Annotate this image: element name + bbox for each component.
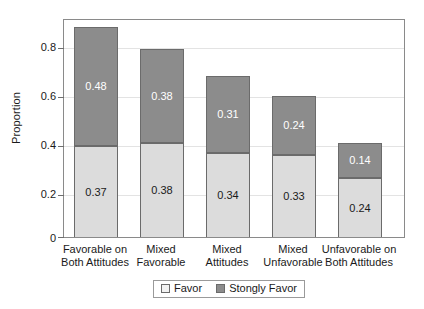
legend-label-favor: Favor xyxy=(174,283,202,294)
chart-legend: Favor Stongly Favor xyxy=(153,280,305,298)
bar-segment-favor[interactable]: 0.38 xyxy=(140,143,184,237)
bar-mixed-attitudes[interactable]: 0.31 0.34 xyxy=(206,76,250,237)
x-tick-label-unfavorable-on-both-attitudes: Unfavorable on Both Attitudes xyxy=(304,243,414,269)
bar-value-label: 0.24 xyxy=(349,203,370,214)
bar-segment-strongly-favor[interactable]: 0.48 xyxy=(74,27,118,146)
y-tick-mark-0.4 xyxy=(58,146,64,147)
bar-segment-strongly-favor[interactable]: 0.24 xyxy=(272,96,316,155)
bar-value-label: 0.31 xyxy=(217,109,238,120)
bar-value-label: 0.33 xyxy=(283,191,304,202)
bar-value-label: 0.38 xyxy=(151,185,172,196)
legend-item-strongly-favor[interactable]: Stongly Favor xyxy=(216,283,297,294)
bar-value-label: 0.14 xyxy=(349,155,370,166)
bar-segment-favor[interactable]: 0.24 xyxy=(338,178,382,237)
bar-favorable-on-both-attitudes[interactable]: 0.48 0.37 xyxy=(74,27,118,237)
legend-item-favor[interactable]: Favor xyxy=(161,283,202,294)
bar-segment-strongly-favor[interactable]: 0.14 xyxy=(338,143,382,178)
bar-value-label: 0.38 xyxy=(151,91,172,102)
chart-figure: Proportion 0.8 0.6 0.4 0.2 0 0.48 0.37 xyxy=(0,0,424,309)
y-tick-mark-0.2 xyxy=(58,195,64,196)
bar-mixed-favorable[interactable]: 0.38 0.38 xyxy=(140,49,184,237)
x-tick-line-2: Both Attitudes xyxy=(304,256,414,269)
bar-segment-favor[interactable]: 0.33 xyxy=(272,155,316,237)
bar-segment-favor[interactable]: 0.34 xyxy=(206,153,250,237)
bar-value-label: 0.34 xyxy=(217,190,238,201)
bar-value-label: 0.37 xyxy=(85,187,106,198)
y-tick-label-0.6: 0.6 xyxy=(22,91,56,101)
legend-swatch-favor-icon xyxy=(161,284,170,293)
bar-value-label: 0.24 xyxy=(283,120,304,131)
y-tick-label-0.2: 0.2 xyxy=(22,189,56,199)
y-tick-mark-0.6 xyxy=(58,97,64,98)
y-tick-mark-0.8 xyxy=(58,48,64,49)
bar-unfavorable-on-both-attitudes[interactable]: 0.14 0.24 xyxy=(338,143,382,237)
plot-area: 0.48 0.37 0.38 0.38 0.31 0.34 xyxy=(63,19,405,238)
y-tick-label-0: 0 xyxy=(22,233,56,243)
x-tick-line-1: Unfavorable on xyxy=(304,243,414,256)
bar-segment-favor[interactable]: 0.37 xyxy=(74,146,118,237)
y-tick-label-0.8: 0.8 xyxy=(22,42,56,52)
y-tick-label-0.4: 0.4 xyxy=(22,140,56,150)
legend-swatch-strongly-favor-icon xyxy=(216,284,225,293)
bar-segment-strongly-favor[interactable]: 0.31 xyxy=(206,76,250,153)
y-tick-mark-0 xyxy=(58,237,64,238)
bar-mixed-unfavorable[interactable]: 0.24 0.33 xyxy=(272,96,316,237)
legend-label-strongly-favor: Stongly Favor xyxy=(229,283,297,294)
bar-segment-strongly-favor[interactable]: 0.38 xyxy=(140,49,184,143)
y-axis-title: Proportion xyxy=(10,68,22,168)
bar-value-label: 0.48 xyxy=(85,81,106,92)
